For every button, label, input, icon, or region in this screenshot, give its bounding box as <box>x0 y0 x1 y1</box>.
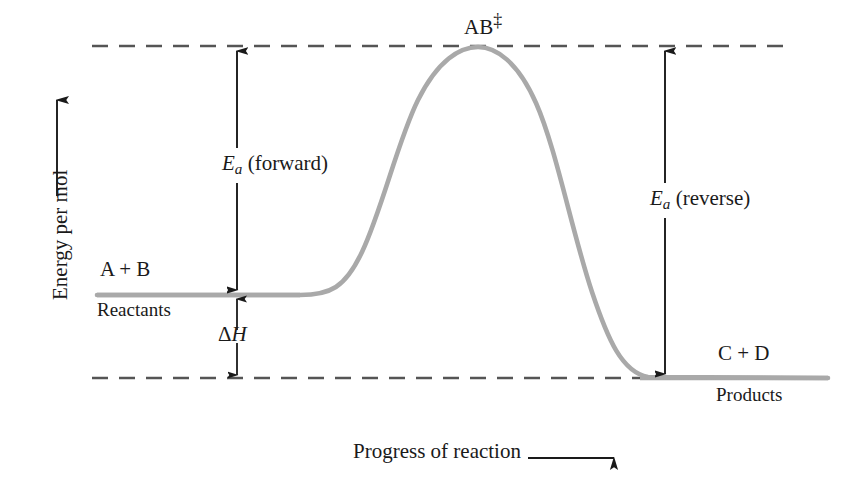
transition-state-label: AB‡ <box>464 12 502 38</box>
x-axis-label: Progress of reaction <box>353 441 521 462</box>
reaction-energy-diagram: Energy per mol Progress of reaction A + … <box>0 0 849 490</box>
ea-forward-text: (forward) <box>248 151 328 175</box>
ea-reverse-subscript: a <box>663 196 671 212</box>
ea-reverse-label: Ea (reverse) <box>650 188 750 212</box>
ea-forward-subscript: a <box>235 161 243 177</box>
transition-state-formula: AB <box>464 15 493 39</box>
energy-profile-plot <box>0 0 849 490</box>
delta-h-enthalpy-symbol: H <box>232 322 247 346</box>
y-axis-label: Energy per mol <box>50 170 71 300</box>
ea-forward-label: Ea (forward) <box>222 153 328 177</box>
products-label: Products <box>716 385 783 404</box>
ea-reverse-text: (reverse) <box>676 186 751 210</box>
double-dagger-icon: ‡ <box>493 10 502 30</box>
products-label-text: Products <box>716 384 783 405</box>
reactants-formula-label: A + B <box>100 259 150 280</box>
delta-h-label: ΔH <box>218 324 247 345</box>
reaction-coordinate-curve <box>97 47 828 378</box>
reactants-label: Reactants <box>97 300 171 319</box>
ea-forward-symbol: E <box>222 151 235 175</box>
products-formula-label: C + D <box>718 343 770 364</box>
ea-reverse-symbol: E <box>650 186 663 210</box>
delta-symbol: Δ <box>218 322 232 346</box>
